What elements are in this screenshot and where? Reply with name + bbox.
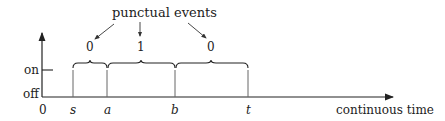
time-label-t: t bbox=[246, 103, 251, 117]
arrow-to-value-1 bbox=[95, 24, 114, 39]
time-label-s: s bbox=[70, 103, 76, 117]
on-label: on bbox=[24, 63, 39, 77]
interval-value-1: 0 bbox=[86, 40, 94, 54]
brace-a-b bbox=[108, 60, 175, 68]
title-label: punctual events bbox=[112, 5, 217, 20]
origin-label: 0 bbox=[39, 103, 47, 117]
interval-value-3: 0 bbox=[207, 40, 215, 54]
interval-value-2: 1 bbox=[137, 40, 145, 54]
diagram: on off 0 s a b t continuous time 0 1 0 p… bbox=[0, 0, 445, 121]
time-label-a: a bbox=[104, 103, 111, 117]
brace-b-t bbox=[176, 60, 248, 68]
x-axis-label: continuous time bbox=[336, 103, 434, 117]
arrow-to-value-3 bbox=[188, 23, 206, 38]
brace-s-a bbox=[73, 60, 107, 68]
off-label: off bbox=[23, 87, 40, 101]
time-label-b: b bbox=[171, 103, 179, 117]
